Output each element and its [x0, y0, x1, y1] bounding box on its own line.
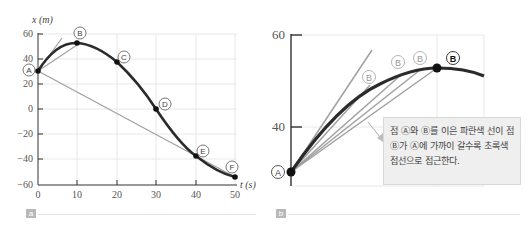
y-tick: −40 — [17, 153, 33, 164]
label-b: B — [77, 29, 82, 38]
y-tick: 40 — [272, 119, 285, 134]
x-tick: 30 — [151, 189, 161, 200]
label-b-intermediate: B — [395, 58, 401, 68]
point-b — [74, 40, 80, 46]
annotation-callout: 점 Ⓐ와 Ⓑ를 이은 파란색 선이 점 Ⓑ가 Ⓐ에 가까이 갈수록 초록색 접선… — [383, 117, 521, 185]
label-e: E — [200, 147, 205, 156]
y-tick: −60 — [17, 179, 33, 190]
point-a — [287, 168, 296, 177]
panel-a-point-labels — [23, 27, 238, 173]
figure-canvas: 60 40 20 0 −20 −40 −60 0 10 20 30 40 50 … — [0, 0, 530, 232]
x-tick: 40 — [191, 189, 201, 200]
panel-a-chart: 60 40 20 0 −20 −40 −60 0 10 20 30 40 50 … — [17, 14, 256, 200]
y-axis-label: x (m) — [31, 14, 53, 26]
x-tick: 20 — [112, 189, 122, 200]
point-a — [35, 68, 41, 74]
label-b-intermediate: B — [366, 73, 372, 83]
panel-a-rule — [38, 214, 256, 215]
x-tick: 50 — [230, 189, 240, 200]
x-tick: 10 — [72, 189, 82, 200]
panel-tag-b: b — [276, 209, 286, 218]
panel-tag-a: a — [26, 209, 36, 218]
callout-text: 점 Ⓐ와 Ⓑ를 이은 파란색 선이 점 Ⓑ가 Ⓐ에 가까이 갈수록 초록색 접선… — [390, 125, 514, 166]
y-tick: 60 — [272, 27, 285, 42]
y-tick: 60 — [23, 28, 33, 39]
label-a: A — [26, 66, 32, 75]
label-d: D — [162, 100, 168, 109]
label-b: B — [450, 54, 457, 64]
panel-b-rule — [288, 214, 520, 215]
y-tick: 40 — [23, 53, 33, 64]
point-d — [153, 106, 159, 112]
y-tick: 20 — [23, 78, 33, 89]
label-f: F — [230, 163, 235, 172]
point-b — [433, 64, 442, 73]
label-b-intermediate: B — [417, 54, 423, 64]
callout-pointer — [368, 122, 383, 142]
label-a: A — [275, 168, 281, 178]
secant-a-f — [38, 71, 235, 177]
label-c: C — [121, 53, 127, 62]
x-axis-label: t (s) — [240, 179, 257, 191]
y-tick: 0 — [28, 103, 33, 114]
y-tick: −20 — [17, 128, 33, 139]
x-tick: 0 — [36, 189, 41, 200]
point-f — [232, 174, 238, 180]
